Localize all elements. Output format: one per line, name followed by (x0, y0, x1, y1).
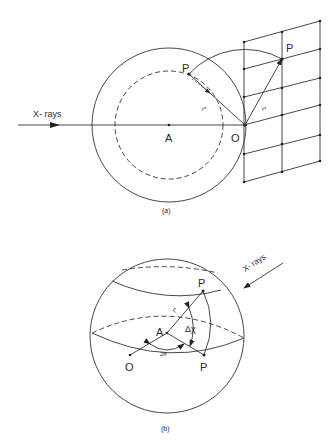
origin-label-a: O (231, 132, 240, 144)
delta-chi-label: Δχ (185, 324, 196, 334)
inner-p-label: P (182, 62, 189, 74)
ewald-sphere (90, 259, 244, 413)
vector-inner-p (189, 74, 245, 125)
beam-arrow-icon (50, 122, 60, 128)
diffraction-diagram: X- rays A O P P r* r* (a) (0, 0, 335, 447)
origin-o-dot-b (129, 354, 132, 357)
two-theta-arc (150, 344, 184, 350)
vector-label-lattice: r* (262, 106, 267, 112)
bottom-p-label: P (200, 361, 207, 373)
equator-back (92, 316, 244, 338)
figure-a: X- rays A O P P r* r* (a) (18, 20, 321, 215)
line-a-bottom-p (167, 333, 204, 355)
rotation-arc (189, 49, 282, 74)
center-label-a: A (165, 132, 173, 144)
lattice-p-label: P (286, 42, 293, 54)
reciprocal-lattice-grid (243, 20, 322, 184)
origin-label-b: O (125, 361, 134, 373)
figure-b: X- rays A O P P r* Δχ 2θ (b) (90, 252, 283, 433)
caption-a: (a) (162, 207, 171, 215)
two-theta-label: 2θ (160, 351, 167, 357)
xrays-label-b: X- rays (241, 252, 267, 273)
top-latitude-back (122, 267, 218, 273)
top-p-label: P (198, 277, 205, 289)
center-a-dot (168, 124, 171, 127)
vector-label-b: r* (171, 306, 179, 314)
vector-label-inner: r* (202, 106, 207, 112)
xrays-label-a: X- rays (33, 109, 62, 119)
center-label-b: A (156, 326, 164, 338)
caption-b: (b) (161, 425, 170, 433)
